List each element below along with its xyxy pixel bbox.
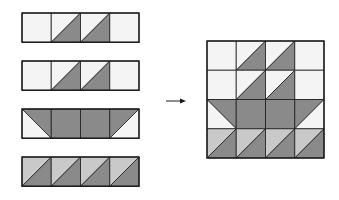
quilt-cell <box>236 41 265 70</box>
quilt-cell <box>236 129 265 158</box>
quilt-cell <box>236 100 265 129</box>
quilt-cell <box>266 41 295 70</box>
quilt-cell <box>266 129 295 158</box>
quilt-cell <box>207 70 236 99</box>
quilt-cell <box>51 109 80 138</box>
quilt-cell <box>81 13 110 42</box>
strip-row-3 <box>22 109 139 138</box>
quilt-cell <box>22 109 51 138</box>
strip-row-1 <box>22 13 139 42</box>
quilt-cell <box>110 157 139 186</box>
quilt-cell <box>51 157 80 186</box>
quilt-cell <box>51 13 80 42</box>
strip-row-2 <box>22 61 139 90</box>
row-strips <box>22 13 139 186</box>
quilt-cell <box>266 100 295 129</box>
quilt-cell <box>266 70 295 99</box>
quilt-cell <box>22 157 51 186</box>
quilt-cell <box>207 100 236 129</box>
quilt-cell <box>51 61 80 90</box>
strip-row-4 <box>22 157 139 186</box>
quilt-cell <box>81 109 110 138</box>
quilt-cell <box>207 41 236 70</box>
quilt-cell <box>295 100 324 129</box>
assembled-block <box>207 41 324 158</box>
quilt-cell <box>236 70 265 99</box>
quilt-cell <box>295 129 324 158</box>
quilt-cell <box>110 13 139 42</box>
quilt-cell <box>81 157 110 186</box>
quilt-cell <box>207 129 236 158</box>
arrow-icon <box>166 99 186 104</box>
quilt-cell <box>81 61 110 90</box>
quilt-cell <box>110 61 139 90</box>
quilt-cell <box>22 61 51 90</box>
quilt-block-diagram <box>0 0 339 200</box>
quilt-cell <box>110 109 139 138</box>
quilt-cell <box>295 41 324 70</box>
quilt-cell <box>295 70 324 99</box>
quilt-cell <box>22 13 51 42</box>
